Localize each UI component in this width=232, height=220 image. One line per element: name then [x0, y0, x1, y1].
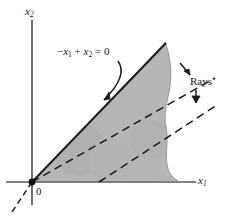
boundary-line-dashed-extension — [12, 182, 32, 212]
rays-upper-arrow — [180, 63, 190, 75]
shaded-cone-region — [30, 40, 180, 185]
constraint-plus-sign: + — [75, 45, 81, 57]
rays-label: Rays — [190, 76, 212, 87]
axis-label-x1: x1 — [198, 175, 207, 187]
constraint-equals-zero: = 0 — [95, 45, 109, 57]
axis-label-x2: x2 — [25, 6, 34, 18]
region-texture — [30, 40, 180, 185]
axis-label-x2-subscript: 2 — [30, 10, 34, 19]
origin-marker — [29, 179, 36, 186]
constraint-equation-label: −x1 + x2 = 0 — [57, 46, 109, 58]
axis-label-x1-subscript: 1 — [203, 179, 207, 188]
cone-rays-figure: x2 x1 0 −x1 + x2 = 0 Rays — [0, 0, 232, 220]
origin-label: 0 — [36, 186, 42, 197]
rays-lower-arrow — [192, 90, 200, 103]
